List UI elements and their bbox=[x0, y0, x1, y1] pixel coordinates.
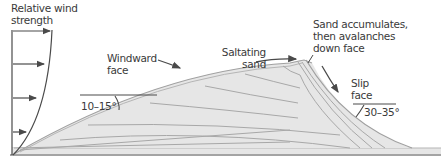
wind-strength-label: Relative wind strength bbox=[11, 2, 78, 26]
slip-face-label: Slip face bbox=[351, 77, 372, 101]
windward-arrow bbox=[158, 60, 180, 68]
base-strip bbox=[12, 148, 441, 154]
slip-angle-arc bbox=[356, 105, 364, 117]
saltating-sand-label: Saltating sand bbox=[212, 46, 266, 70]
windward-angle-label: 10–15° bbox=[81, 100, 116, 112]
windward-face-label: Windward face bbox=[107, 52, 157, 76]
accumulates-label: Sand accumulates, then avalanches down f… bbox=[313, 18, 408, 54]
slip-angle-label: 30–35° bbox=[364, 106, 399, 118]
